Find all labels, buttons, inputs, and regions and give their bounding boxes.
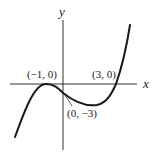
cubic-curve (15, 25, 130, 137)
cubic-function-graph: x y (−1, 0) (3, 0) (0, −3) (0, 0, 156, 152)
y-intercept-label: (0, −3) (67, 107, 97, 120)
y-axis-label: y (57, 4, 65, 19)
local-max-label: (−1, 0) (27, 68, 57, 81)
x-intercept-label: (3, 0) (92, 68, 116, 81)
x-axis-label: x (142, 76, 149, 91)
